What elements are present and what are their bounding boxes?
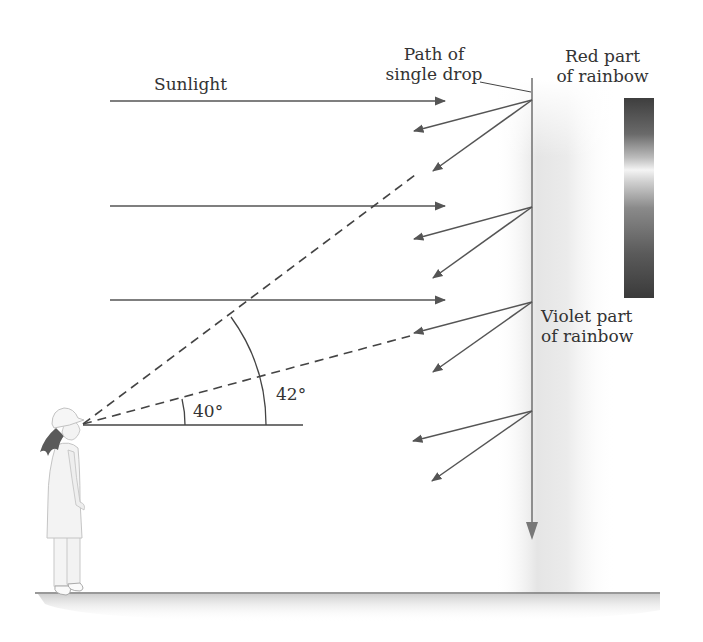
observer-figure [40, 408, 85, 595]
arc-42 [231, 317, 266, 425]
angle-42-label: 42° [276, 384, 306, 404]
violet-part-label: Violet part of rainbow [541, 306, 633, 346]
path-label-line-1: Path of [384, 44, 484, 64]
ground [35, 593, 660, 622]
angle-40-label: 40° [193, 401, 223, 421]
violet-label-line-1: Violet part [541, 306, 633, 326]
rainbow-diagram: Sunlight Path of single drop Red part of… [0, 0, 703, 642]
violet-label-line-2: of rainbow [541, 326, 633, 346]
red-part-label: Red part of rainbow [540, 46, 665, 86]
sunlight-label: Sunlight [154, 74, 227, 94]
path-of-single-drop-label: Path of single drop [384, 44, 484, 84]
path-label-line-2: single drop [384, 64, 484, 84]
sunlight-rays [110, 101, 445, 300]
arc-40 [182, 399, 185, 425]
red-label-line-1: Red part [540, 46, 665, 66]
sight-line-40 [83, 336, 410, 424]
red-label-line-2: of rainbow [540, 66, 665, 86]
rainbow-spectrum-bar [624, 98, 654, 298]
